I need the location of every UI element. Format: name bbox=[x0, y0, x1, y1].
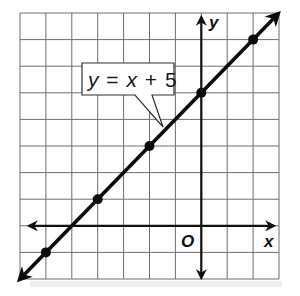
equation-callout: y = x + 5 bbox=[82, 63, 177, 127]
plotted-point bbox=[41, 247, 51, 257]
coordinate-graph: y x O y = x + 5 bbox=[0, 0, 300, 296]
x-axis-label: x bbox=[263, 232, 275, 251]
y-axis-label: y bbox=[208, 13, 220, 32]
grid-shadow bbox=[30, 281, 282, 287]
plotted-point bbox=[248, 35, 258, 45]
plotted-point bbox=[93, 194, 103, 204]
plotted-point bbox=[196, 88, 206, 98]
origin-label: O bbox=[181, 232, 194, 251]
plotted-point bbox=[145, 141, 155, 151]
